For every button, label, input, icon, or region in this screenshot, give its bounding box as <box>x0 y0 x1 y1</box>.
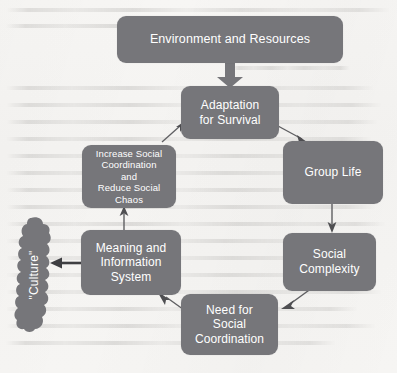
diagram-canvas: Environment and Resources Adaptation for… <box>0 0 397 373</box>
arrow-meaning-to-culture <box>50 256 84 270</box>
node-social-complexity-label: Social Complexity <box>287 247 371 276</box>
node-meaning-and-information-system[interactable]: Meaning and Information System <box>81 230 181 295</box>
node-adaptation-for-survival[interactable]: Adaptation for Survival <box>181 86 279 139</box>
arrow-social-complexity-to-need <box>276 287 316 315</box>
node-increase-line-4: Chaos <box>88 194 170 206</box>
node-need-line-3: Coordination <box>189 332 270 347</box>
arrow-group-life-to-social-complexity <box>325 204 339 234</box>
node-social-complexity[interactable]: Social Complexity <box>283 233 376 291</box>
node-adaptation-label: Adaptation for Survival <box>187 98 272 127</box>
node-increase-social-coordination[interactable]: Increase Social Coordination and Reduce … <box>82 145 176 208</box>
node-adaptation-line-2: for Survival <box>193 113 266 128</box>
node-social-complexity-line-1: Social <box>293 247 365 262</box>
node-adaptation-line-1: Adaptation <box>193 98 266 113</box>
node-need-line-2: Social <box>189 317 270 332</box>
node-need-for-social-coordination[interactable]: Need for Social Coordination <box>181 294 278 355</box>
node-need-line-1: Need for <box>189 303 270 318</box>
node-group-life[interactable]: Group Life <box>283 141 383 204</box>
node-culture-label-wrapper: "Culture" <box>13 216 53 334</box>
node-culture-cloud[interactable]: "Culture" <box>13 216 53 334</box>
node-increase-label: Increase Social Coordination and Reduce … <box>82 148 176 206</box>
node-increase-line-2: Coordination and <box>88 159 170 182</box>
node-increase-line-3: Reduce Social <box>88 182 170 194</box>
node-group-life-label: Group Life <box>298 165 367 180</box>
node-meaning-line-1: Meaning and <box>90 241 173 256</box>
node-environment-and-resources[interactable]: Environment and Resources <box>117 16 343 63</box>
node-need-label: Need for Social Coordination <box>183 303 276 347</box>
node-environment-label: Environment and Resources <box>144 32 316 47</box>
arrow-environment-to-adaptation <box>212 62 248 88</box>
node-increase-line-1: Increase Social <box>88 148 170 160</box>
node-meaning-line-3: System <box>90 270 173 285</box>
node-meaning-line-2: Information <box>90 255 173 270</box>
node-social-complexity-line-2: Complexity <box>293 262 365 277</box>
node-meaning-label: Meaning and Information System <box>84 241 179 285</box>
node-culture-label: "Culture" <box>26 250 40 299</box>
